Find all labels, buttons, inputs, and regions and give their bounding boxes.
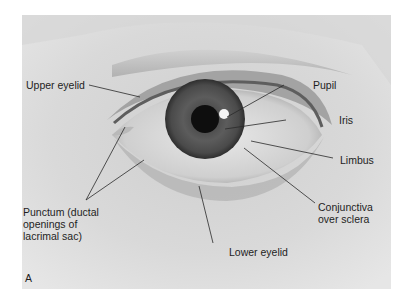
panel-letter: A xyxy=(25,272,32,284)
label-upper-eyelid: Upper eyelid xyxy=(26,79,85,91)
eye-illustration xyxy=(22,15,391,289)
eye-photograph xyxy=(22,15,391,289)
label-iris: Iris xyxy=(339,114,353,126)
label-lower-eyelid: Lower eyelid xyxy=(229,246,288,258)
label-conjunctiva: Conjunctiva over sclera xyxy=(318,201,373,225)
label-punctum: Punctum (ductal openings of lacrimal sac… xyxy=(23,206,99,242)
label-pupil: Pupil xyxy=(313,79,336,91)
label-limbus: Limbus xyxy=(340,154,374,166)
